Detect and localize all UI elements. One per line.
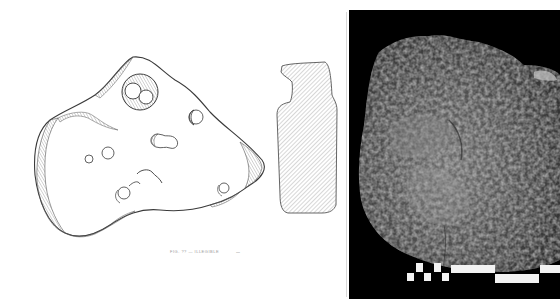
artifact-figure: FIG. ?? — ILLEGIBLE — xyxy=(0,0,560,305)
section-view xyxy=(277,62,337,213)
panel-divider xyxy=(346,12,347,297)
artifact-photograph xyxy=(349,10,560,299)
technical-drawing xyxy=(0,0,346,305)
scale-label: — xyxy=(236,249,240,254)
plan-view xyxy=(35,57,265,237)
figure-caption: FIG. ?? — ILLEGIBLE xyxy=(170,249,219,254)
